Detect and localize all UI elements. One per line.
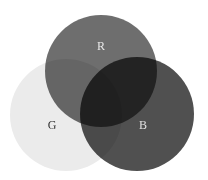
circle-b xyxy=(80,57,194,171)
venn-svg: R G B xyxy=(0,0,208,180)
venn-diagram: R G B xyxy=(0,0,208,180)
label-b: B xyxy=(139,118,147,132)
label-g: G xyxy=(48,118,57,132)
label-r: R xyxy=(97,39,105,53)
